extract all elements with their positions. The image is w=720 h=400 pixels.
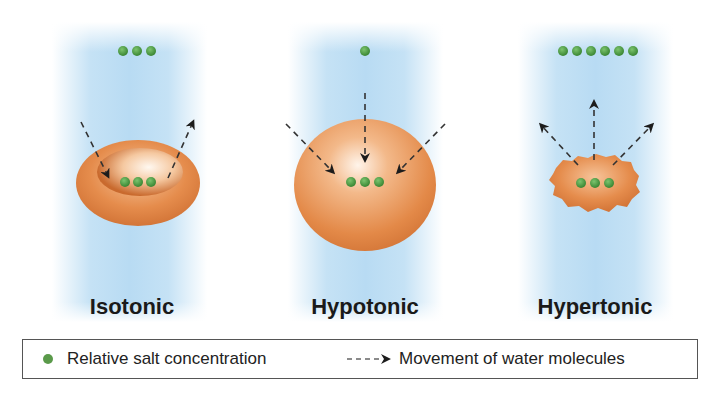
legend-salt-item: Relative salt concentration — [43, 349, 266, 369]
hypertonic-outside-salt — [558, 46, 638, 56]
salt-dot-icon — [43, 354, 53, 364]
isotonic-outside-salt — [118, 46, 156, 56]
legend-water-item: Movement of water molecules — [345, 349, 625, 369]
legend-box: Relative salt concentration Movement of … — [22, 339, 698, 379]
legend-salt-label: Relative salt concentration — [67, 349, 266, 369]
hypotonic-label: Hypotonic — [265, 294, 465, 320]
isotonic-inside-salt — [120, 177, 156, 187]
hypotonic-inside-salt — [346, 177, 384, 187]
hypertonic-label: Hypertonic — [495, 294, 695, 320]
hypertonic-inside-salt — [576, 178, 614, 188]
hypotonic-outside-salt — [360, 46, 370, 56]
legend-water-label: Movement of water molecules — [399, 349, 625, 369]
isotonic-label: Isotonic — [32, 294, 232, 320]
dashed-arrow-icon — [345, 353, 393, 365]
water-arrow-out-left — [541, 125, 578, 165]
